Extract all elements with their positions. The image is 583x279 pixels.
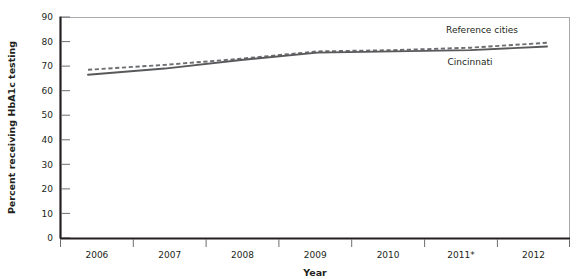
y-tick-label-0: 0 <box>47 233 53 243</box>
y-tick-label-40: 40 <box>42 135 54 145</box>
series-label-cincinnati: Cincinnati <box>448 57 493 67</box>
x-tick-label-2007: 2007 <box>158 250 181 260</box>
x-tick-label-2008: 2008 <box>231 250 254 260</box>
y-tick-label-60: 60 <box>42 86 54 96</box>
y-tick-label-10: 10 <box>42 209 54 219</box>
x-tick-label-2012: 2012 <box>522 250 545 260</box>
y-axis-title: Percent receiving HbA1c testing <box>6 41 17 214</box>
y-tick-label-20: 20 <box>42 184 54 194</box>
x-tick-label-2011: 2011* <box>447 250 475 260</box>
x-tick-label-2010: 2010 <box>377 250 400 260</box>
y-tick-label-70: 70 <box>42 61 54 71</box>
chart-background <box>0 0 583 279</box>
y-tick-label-50: 50 <box>42 110 54 120</box>
chart-figure: 0 10 20 30 40 50 60 70 80 90 Percent rec… <box>0 0 583 279</box>
y-tick-label-30: 30 <box>42 160 54 170</box>
line-chart: 0 10 20 30 40 50 60 70 80 90 Percent rec… <box>0 0 583 279</box>
y-tick-label-90: 90 <box>42 12 54 22</box>
series-label-reference-cities: Reference cities <box>446 25 518 35</box>
x-axis-title: Year <box>302 267 327 278</box>
y-tick-label-80: 80 <box>42 37 54 47</box>
x-tick-label-2009: 2009 <box>304 250 327 260</box>
x-tick-label-2006: 2006 <box>85 250 108 260</box>
